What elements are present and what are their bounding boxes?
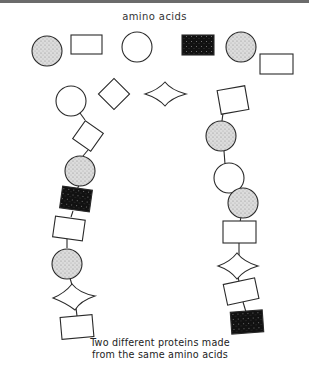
- diamond-square-icon: [73, 121, 104, 152]
- open-circle-icon: [56, 86, 86, 116]
- concave-star-icon: [218, 253, 258, 279]
- concave-star-icon: [53, 284, 95, 310]
- stippled-circle-icon: [206, 121, 236, 151]
- stippled-circle-icon: [32, 36, 62, 66]
- tilted-square-icon: [217, 86, 249, 114]
- black-rectangle-icon: [182, 35, 214, 55]
- diamond-icon: [98, 78, 129, 109]
- stippled-circle-icon: [65, 156, 95, 186]
- protein-diagram: [0, 0, 309, 365]
- rectangle-icon: [60, 315, 94, 340]
- black-rectangle-icon: [60, 186, 93, 212]
- concave-star-icon: [145, 82, 186, 106]
- open-circle-icon: [122, 32, 152, 62]
- rectangle-icon: [260, 54, 293, 74]
- rectangle-icon: [223, 221, 256, 243]
- rectangle-icon: [71, 35, 102, 54]
- protein-chain-left: [52, 86, 103, 339]
- figure-caption: Two different proteins made from the sam…: [60, 337, 260, 361]
- caption-line-2: from the same amino acids: [60, 349, 260, 361]
- caption-line-1: Two different proteins made: [60, 337, 260, 349]
- stippled-circle-icon: [226, 32, 256, 62]
- rectangle-icon: [223, 278, 259, 305]
- stippled-circle-icon: [228, 188, 258, 218]
- rectangle-icon: [53, 216, 86, 241]
- protein-chain-right: [206, 86, 264, 334]
- black-rectangle-icon: [230, 310, 263, 334]
- stippled-circle-icon: [52, 249, 82, 279]
